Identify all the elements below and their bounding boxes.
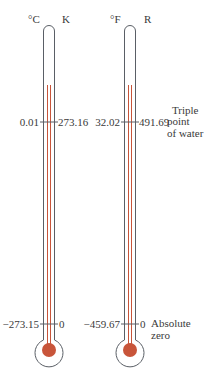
kelvin-absolute-zero-value: 0 [59,318,65,330]
celsius-absolute-zero-value: −273.15 [3,318,39,330]
kelvin-triple-point-value: 273.16 [58,116,88,128]
absolute-zero-line-2: zero [151,330,191,342]
celsius-triple-point-value: 0.01 [20,116,39,128]
thermometer-fahrenheit-rankine [116,26,144,367]
absolute-zero-annotation: Absolute zero [151,318,191,341]
absolute-zero-line-1: Absolute [151,318,191,330]
unit-celsius-label: °C [28,13,40,25]
triple-point-line-2: point [167,116,203,128]
unit-kelvin-label: K [62,13,70,25]
thermometer-celsius-kelvin [35,26,63,367]
rankine-triple-point-value: 491.69 [139,116,169,128]
triple-point-line-3: of water [167,128,203,140]
fahrenheit-triple-point-value: 32.02 [95,116,120,128]
triple-point-annotation-cont: point of water [167,116,203,139]
unit-rankine-label: R [144,13,151,25]
rankine-absolute-zero-value: 0 [140,318,146,330]
unit-fahrenheit-label: °F [110,13,121,25]
fahrenheit-absolute-zero-value: −459.67 [84,318,120,330]
